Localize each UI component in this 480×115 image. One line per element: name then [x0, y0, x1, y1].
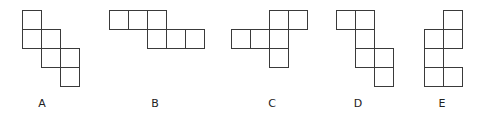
- net-option-c: [232, 11, 308, 68]
- nets-canvas: [0, 0, 480, 115]
- net-face: [186, 30, 205, 49]
- net-face: [270, 49, 289, 68]
- net-face: [232, 30, 251, 49]
- net-face: [148, 30, 167, 49]
- option-label-c: C: [268, 97, 276, 110]
- net-face: [375, 49, 394, 68]
- net-face: [356, 49, 375, 68]
- net-face: [375, 68, 394, 87]
- net-face: [356, 30, 375, 49]
- net-option-d: [337, 11, 394, 87]
- net-face: [167, 30, 186, 49]
- net-face: [270, 30, 289, 49]
- net-option-e: [425, 11, 463, 87]
- net-face: [110, 11, 129, 30]
- net-option-b: [110, 11, 205, 49]
- net-face: [337, 11, 356, 30]
- net-face: [129, 11, 148, 30]
- net-face: [270, 11, 289, 30]
- net-face: [356, 11, 375, 30]
- net-option-a: [23, 11, 80, 87]
- net-face: [42, 30, 61, 49]
- net-face: [23, 30, 42, 49]
- net-face: [148, 11, 167, 30]
- net-face: [444, 11, 463, 30]
- net-face: [425, 68, 444, 87]
- net-face: [42, 49, 61, 68]
- net-face: [23, 11, 42, 30]
- net-face: [444, 68, 463, 87]
- net-face: [251, 30, 270, 49]
- option-label-d: D: [354, 97, 362, 110]
- net-face: [61, 68, 80, 87]
- option-label-a: A: [38, 97, 46, 110]
- option-label-e: E: [439, 97, 446, 110]
- net-face: [289, 11, 308, 30]
- net-face: [444, 30, 463, 49]
- option-label-b: B: [151, 97, 159, 110]
- net-face: [425, 30, 444, 49]
- net-face: [61, 49, 80, 68]
- net-face: [425, 49, 444, 68]
